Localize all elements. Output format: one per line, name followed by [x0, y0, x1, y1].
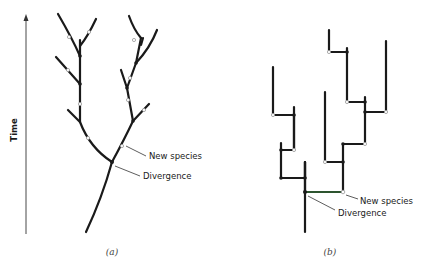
- caption-b: (b): [324, 247, 337, 257]
- new-species-label-a: New species: [149, 151, 203, 161]
- panel-b: New species Divergence (b): [271, 30, 413, 257]
- divergence-label-a: Divergence: [143, 171, 191, 181]
- gradual-tree: [56, 14, 157, 232]
- caption-a: (a): [106, 247, 119, 257]
- panel-a: Time: [9, 14, 203, 257]
- time-axis-arrow: [24, 14, 29, 234]
- new-species-label-b: New species: [360, 196, 414, 206]
- time-axis-label: Time: [9, 118, 19, 142]
- figure: Time: [0, 0, 422, 272]
- divergence-label-b: Divergence: [338, 208, 386, 218]
